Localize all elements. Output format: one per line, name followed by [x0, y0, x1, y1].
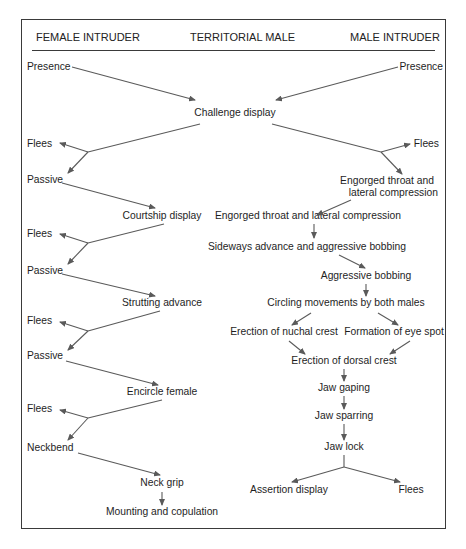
flow-arrows: [0, 0, 466, 549]
